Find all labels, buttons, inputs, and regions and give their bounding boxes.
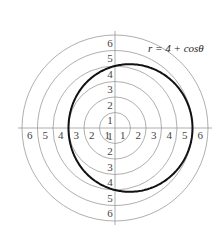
tick-label-up: 2	[107, 99, 113, 111]
tick-label-left: 5	[43, 129, 49, 141]
tick-label-left: 4	[58, 129, 64, 141]
polar-axes	[18, 31, 212, 225]
tick-label-down: 2	[107, 145, 113, 157]
tick-label-left: 6	[27, 129, 33, 141]
tick-label-up: 4	[107, 68, 113, 80]
tick-label-left: 2	[89, 129, 95, 141]
tick-label-right: 5	[182, 129, 188, 141]
equation-label: r = 4 + cosθ	[148, 42, 204, 54]
tick-label-down: 4	[107, 176, 113, 188]
tick-label-right: 3	[151, 129, 157, 141]
tick-label-down: 5	[107, 192, 113, 204]
tick-label-down: 6	[107, 207, 113, 219]
tick-label-left: 3	[74, 129, 80, 141]
polar-plot: 111122223333444455556666 r = 4 + cosθ	[0, 0, 224, 239]
tick-label-right: 6	[198, 129, 204, 141]
tick-label-right: 1	[120, 129, 126, 141]
tick-label-up: 5	[107, 52, 113, 64]
tick-label-right: 4	[167, 129, 173, 141]
tick-label-down: 1	[107, 130, 113, 142]
tick-label-up: 6	[107, 37, 113, 49]
tick-label-down: 3	[107, 161, 113, 173]
tick-label-up: 3	[107, 83, 113, 95]
tick-label-right: 2	[136, 129, 142, 141]
tick-label-up: 1	[107, 114, 113, 126]
